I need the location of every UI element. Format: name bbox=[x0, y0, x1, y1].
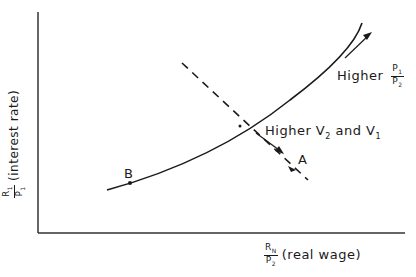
higher-v-label: Higher V2 and V1 bbox=[265, 123, 381, 141]
dashed-curve bbox=[182, 63, 308, 180]
y-axis-label: R1P1(interest rate) bbox=[2, 90, 27, 198]
arrowhead-a-icon bbox=[288, 166, 296, 172]
x-axis-label: RNP2(real wage) bbox=[264, 243, 361, 268]
solid-curve bbox=[107, 23, 362, 190]
higher-p-label: HigherP1P2 bbox=[337, 64, 408, 89]
diagram: R1P1(interest rate) RNP2(real wage) High… bbox=[0, 0, 416, 277]
point-b-marker bbox=[128, 181, 132, 185]
y-fraction: R1P1 bbox=[2, 185, 27, 198]
intersection-marker bbox=[239, 125, 242, 128]
point-a-label: A bbox=[298, 152, 307, 167]
p-fraction: P1P2 bbox=[391, 64, 403, 89]
x-fraction: RNP2 bbox=[264, 243, 278, 268]
point-b-label: B bbox=[124, 166, 133, 181]
